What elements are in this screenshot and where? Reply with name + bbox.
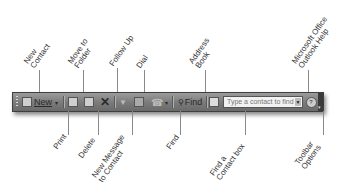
callout-line-dial [144,70,145,93]
contacts-toolbar: New ▾ ✕ ▼ ☎ ▾ ⚲ Find Type a contact to f… [12,92,324,112]
new-message-icon [134,97,144,107]
find-label: Find [185,97,203,107]
callout-line-find-contact [245,111,246,135]
label-line: Find [165,134,180,151]
callout-address-book: Address Book [188,37,218,70]
dial-button[interactable]: ☎ ▾ [148,95,170,109]
find-button[interactable]: ⚲ Find [175,95,205,109]
flag-icon: ▼ [119,98,127,107]
find-icon: ⚲ [178,98,184,107]
chevron-down-icon[interactable]: ▼ [295,98,301,106]
callout-line-address-book [205,70,206,93]
callout-line-new-contact [39,70,40,93]
callout-move-to-folder: Move to Folder [67,38,96,70]
callout-outlook-help: Microsoft Office Outlook Help [291,15,336,70]
label-line: Follow Up [108,34,135,68]
new-contact-button[interactable]: New ▾ [21,95,59,109]
callout-line-delete [98,111,99,135]
new-label: New [34,97,52,107]
new-message-to-contact-button[interactable] [132,95,146,109]
callout-line-print [68,111,69,135]
print-icon [68,97,78,107]
move-to-folder-button[interactable] [82,95,96,109]
callout-line-toolbar-options [323,111,324,135]
follow-up-button[interactable]: ▼ [116,95,130,109]
separator [206,96,207,108]
callout-find: Find [165,134,180,151]
callout-line-new-message [132,111,133,135]
callout-line-follow-up [117,68,118,93]
toolbar-grip[interactable] [16,96,18,108]
separator [114,96,115,108]
toolbar-options-button[interactable]: ▾ [318,93,323,111]
callout-new-contact: New Contact [23,38,52,70]
callout-follow-up: Follow Up [108,34,135,68]
separator [63,96,64,108]
label-line: Dial [135,54,149,70]
help-icon: ? [306,97,317,108]
label-line: Print [52,133,68,151]
toolbar-options-icon: ▾ [318,104,321,110]
label-line: Delete [77,136,97,160]
find-contact-placeholder: Type a contact to find [227,98,294,105]
callout-delete: Delete [77,136,97,160]
callout-find-a-contact-box: Find a Contact box [209,138,247,182]
move-to-folder-icon [84,97,94,107]
phone-icon: ☎ [151,97,163,108]
find-a-contact-box[interactable]: Type a contact to find ▼ [223,96,303,108]
chevron-down-icon: ▾ [165,99,168,106]
callout-line-move-to-folder [83,70,84,93]
callout-toolbar-options: Toolbar Options [294,139,323,171]
callout-dial: Dial [135,54,149,70]
delete-button[interactable]: ✕ [98,95,112,109]
callout-line-help [308,70,309,93]
delete-x-icon: ✕ [100,95,110,109]
help-button[interactable]: ? [305,95,317,109]
callout-line-find [180,111,181,135]
chevron-down-icon: ▾ [55,99,58,106]
address-book-button[interactable] [208,95,220,109]
print-button[interactable] [66,95,80,109]
callout-print: Print [52,133,68,151]
new-contact-icon [22,97,32,107]
separator [172,96,173,108]
address-book-icon [209,97,219,107]
